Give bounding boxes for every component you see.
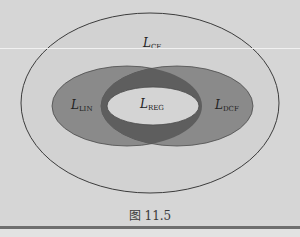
scan-artifact-line [0,48,300,49]
figure-caption: 图 11.5 [0,206,300,223]
language-class-diagram: LCF LLIN LDCF LREG [0,0,300,237]
page-edge-light-band [0,229,300,237]
